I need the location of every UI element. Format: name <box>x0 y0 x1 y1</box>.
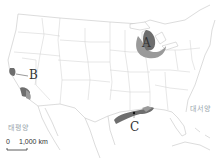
us-industrial-regions-map: A B C 태평양 대서양 0 1,000 km <box>0 0 224 160</box>
region-b-shape <box>9 68 31 100</box>
scale-bar <box>7 148 27 150</box>
scale-distance: 1,000 km <box>19 138 48 145</box>
region-c-label: C <box>130 121 139 133</box>
state-borders <box>14 18 200 110</box>
borders <box>8 5 215 158</box>
caribbean <box>172 128 210 150</box>
scale-zero: 0 <box>6 138 10 145</box>
region-a-label: A <box>142 37 151 49</box>
pacific-ocean-label: 태평양 <box>8 122 29 132</box>
region-b-label: B <box>29 69 38 81</box>
atlantic-ocean-label: 대서양 <box>190 103 211 113</box>
